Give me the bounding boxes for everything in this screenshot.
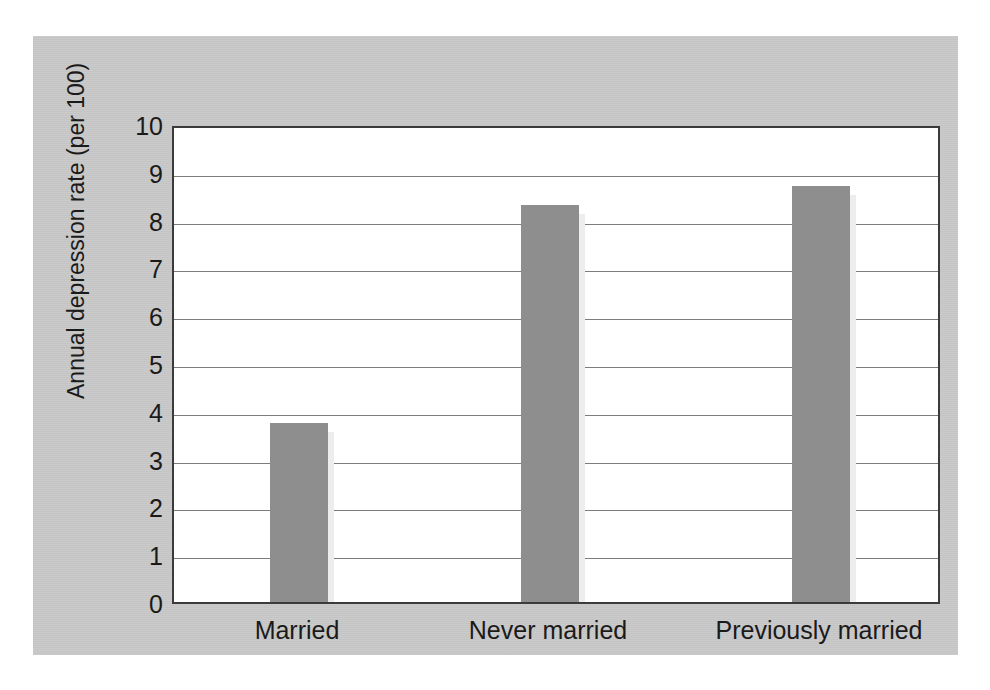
y-axis-tick-label: 2 <box>109 496 163 521</box>
bar-rect <box>270 423 328 602</box>
bar[interactable] <box>521 205 579 602</box>
y-axis-tick-labels: 012345678910 <box>105 126 163 604</box>
chart-panel: Annual depression rate (per 100) 0123456… <box>33 36 958 655</box>
y-axis-tick-label: 0 <box>109 592 163 617</box>
y-axis-tick-label: 5 <box>109 353 163 378</box>
y-axis-title-wrapper: Annual depression rate (per 100) <box>56 69 96 399</box>
bar[interactable] <box>792 186 850 602</box>
y-axis-tick-label: 6 <box>109 305 163 330</box>
y-axis-title: Annual depression rate (per 100) <box>56 69 96 399</box>
bar-series <box>174 128 938 602</box>
bar-rect <box>521 205 579 602</box>
x-axis-tick-labels: MarriedNever marriedPreviously married <box>172 614 940 654</box>
y-axis-tick-label: 8 <box>109 209 163 234</box>
y-axis-tick-label: 7 <box>109 257 163 282</box>
plot-area <box>172 126 940 604</box>
y-axis-tick-label: 10 <box>109 114 163 139</box>
y-axis-tick-label: 3 <box>109 448 163 473</box>
bar[interactable] <box>270 423 328 602</box>
x-axis-tick-label: Previously married <box>715 614 922 646</box>
x-axis-tick-label: Married <box>255 614 340 646</box>
chart-figure: Annual depression rate (per 100) 0123456… <box>0 0 990 690</box>
x-axis-tick-label: Never married <box>469 614 627 646</box>
bar-rect <box>792 186 850 602</box>
y-axis-tick-label: 1 <box>109 544 163 569</box>
y-axis-tick-label: 4 <box>109 400 163 425</box>
y-axis-tick-label: 9 <box>109 161 163 186</box>
